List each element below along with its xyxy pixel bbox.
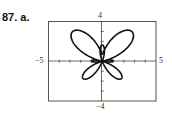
y-min-label: −4	[96, 103, 105, 111]
x-min-label: −5	[35, 57, 44, 65]
butterfly-curve	[71, 30, 133, 79]
y-max-label: 4	[98, 12, 102, 20]
x-max-label: 5	[159, 57, 163, 65]
polar-plot	[0, 0, 172, 116]
